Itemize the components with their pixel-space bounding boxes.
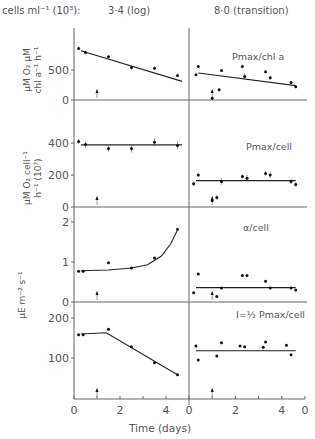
data-point (107, 147, 110, 150)
panel-label: Pmax/cell (246, 141, 292, 152)
data-point (290, 287, 293, 290)
panel-pmax-chl: 0500Pmax/chl a (48, 47, 307, 107)
data-point (176, 228, 179, 231)
arrow-head (211, 388, 214, 392)
y-tick-label: 1 (62, 256, 69, 269)
data-point (269, 174, 272, 177)
data-point (176, 373, 179, 376)
y-axis-label: h⁻¹ (10⁷) (33, 158, 43, 197)
data-point (264, 172, 267, 175)
y-tick-label: 2 (62, 216, 69, 229)
y-tick-label: 100 (48, 352, 69, 365)
data-point (130, 267, 133, 270)
data-point (211, 199, 214, 202)
x-tick-label: 0 (186, 404, 193, 417)
arrow-head (96, 196, 99, 200)
panel-label: I=½ Pmax/cell (236, 309, 305, 320)
data-point (153, 257, 156, 260)
data-point (82, 270, 85, 273)
data-point (241, 274, 244, 277)
y-tick-label: 200 (48, 169, 69, 182)
data-point (246, 177, 249, 180)
data-point (77, 270, 80, 273)
data-point (218, 88, 221, 91)
data-point (176, 144, 179, 147)
data-point (197, 273, 200, 276)
y-axis-label: μM O₂ cell⁻¹ (22, 151, 32, 205)
y-axis-label: μE m⁻² s⁻¹ (17, 271, 27, 319)
x-tick-label: 2 (117, 404, 124, 417)
panel-ik-cell: 100200I=½ Pmax/cell (48, 309, 305, 397)
y-tick-label: 0 (62, 201, 69, 214)
data-point (130, 147, 133, 150)
data-point (153, 141, 156, 144)
y-axis-label: chl a⁻¹ h⁻¹ (33, 46, 43, 93)
data-point (107, 328, 110, 331)
data-point (241, 65, 244, 68)
arrow-head (96, 388, 99, 392)
header-cells-label: cells ml⁻¹ (10³): (2, 5, 81, 16)
data-point (290, 180, 293, 183)
data-point (77, 47, 80, 50)
x-tick-label: 0 (71, 404, 78, 417)
y-axis-label: μM O₂ μM (22, 48, 32, 91)
header-left-condition: 3·4 (log) (108, 5, 150, 16)
data-point (130, 66, 133, 69)
right-fit-line (198, 73, 295, 86)
data-point (197, 359, 200, 362)
panel-pmax-cell: 0200400Pmax/cell (48, 137, 307, 214)
data-point (84, 143, 87, 146)
arrow-head (211, 291, 214, 295)
data-point (294, 85, 297, 88)
x-axis-label: Time (days) (128, 422, 191, 434)
data-point (264, 341, 267, 344)
data-point (197, 174, 200, 177)
data-point (215, 295, 218, 298)
data-point (239, 345, 242, 348)
data-point (84, 51, 87, 54)
data-point (176, 74, 179, 77)
data-point (264, 280, 267, 283)
header-right-condition: 8·0 (transition) (214, 5, 289, 16)
data-point (215, 196, 218, 199)
panel-label: α/cell (243, 222, 269, 233)
data-point (107, 55, 110, 58)
x-tick-label: 0 (302, 404, 309, 417)
data-point (107, 261, 110, 264)
data-point (220, 341, 223, 344)
arrow-head (96, 291, 99, 295)
arrow-head (211, 89, 214, 93)
data-point (269, 76, 272, 79)
data-point (290, 81, 293, 84)
x-tick-label: 4 (278, 404, 285, 417)
y-tick-label: 0 (62, 94, 69, 107)
data-point (241, 175, 244, 178)
data-point (220, 287, 223, 290)
y-tick-label: 0 (62, 296, 69, 309)
data-point (82, 333, 85, 336)
y-tick-label: 400 (48, 137, 69, 150)
data-point (192, 182, 195, 185)
figure: cells ml⁻¹ (10³): 3·4 (log) 8·0 (transit… (0, 0, 315, 439)
panel-alpha-cell: 012α/cell (62, 216, 307, 309)
y-tick-label: 500 (48, 64, 69, 77)
data-point (246, 274, 249, 277)
panel-label: Pmax/chl a (232, 51, 284, 62)
data-point (197, 65, 200, 68)
data-point (211, 97, 214, 100)
data-point (285, 344, 288, 347)
data-point (243, 75, 246, 78)
data-point (153, 361, 156, 364)
data-point (77, 333, 80, 336)
data-point (220, 180, 223, 183)
data-point (153, 67, 156, 70)
data-point (194, 73, 197, 76)
data-point (192, 291, 195, 294)
data-point (215, 355, 218, 358)
data-point (220, 69, 223, 72)
y-tick-label: 200 (48, 312, 69, 325)
data-point (262, 346, 265, 349)
data-point (130, 345, 133, 348)
data-point (243, 345, 246, 348)
x-tick-label: 2 (232, 404, 239, 417)
